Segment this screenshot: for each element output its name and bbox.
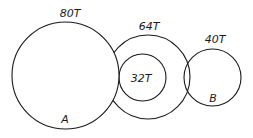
gear-b-name-label: B <box>209 92 217 105</box>
gear-a-teeth-label: 80T <box>60 7 82 20</box>
gear-64t-teeth-label: 64T <box>139 20 161 33</box>
gear-train-diagram: 80T 64T 32T 40T A B <box>0 0 253 138</box>
gear-b-teeth-label: 40T <box>205 33 227 46</box>
gear-32t-teeth-label: 32T <box>131 72 153 85</box>
gear-a-name-label: A <box>60 113 69 126</box>
